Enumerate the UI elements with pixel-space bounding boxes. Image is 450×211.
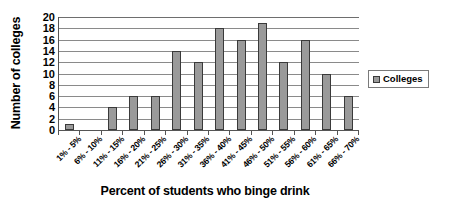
binge-drinking-bar-chart: Number of colleges 02468101214161820 1% … — [0, 0, 450, 211]
bar[interactable] — [279, 62, 288, 130]
bar[interactable] — [237, 40, 246, 130]
bar-slot — [102, 17, 123, 130]
bar[interactable] — [258, 23, 267, 130]
y-axis-title: Number of colleges — [9, 3, 23, 143]
bar[interactable] — [344, 96, 353, 130]
bar[interactable] — [215, 28, 224, 130]
y-axis-tick-label: 10 — [29, 68, 55, 79]
y-axis-tick-label: 16 — [29, 34, 55, 45]
bar-slot — [59, 17, 80, 130]
x-axis-tick-labels: 1% - 5%6% - 10%11% - 15%16% - 20%21% - 2… — [58, 134, 359, 180]
y-axis-tick-labels: 02468101214161820 — [29, 12, 55, 130]
bar-series-colleges — [59, 17, 359, 130]
bar-slot — [123, 17, 144, 130]
bar[interactable] — [322, 74, 331, 131]
bar[interactable] — [129, 96, 138, 130]
y-axis-tick-label: 0 — [29, 125, 55, 136]
y-axis-tick-label: 4 — [29, 102, 55, 113]
bar[interactable] — [108, 107, 117, 130]
chart-legend: Colleges — [368, 70, 429, 88]
bar-slot — [80, 17, 101, 130]
legend-label-colleges: Colleges — [383, 74, 423, 84]
bar-slot — [316, 17, 337, 130]
y-axis-tick-label: 12 — [29, 57, 55, 68]
y-axis-tick-label: 18 — [29, 23, 55, 34]
bar-slot — [230, 17, 251, 130]
bar[interactable] — [172, 51, 181, 130]
bar[interactable] — [301, 40, 310, 130]
bar-slot — [209, 17, 230, 130]
y-axis-tick-label: 14 — [29, 45, 55, 56]
plot-area — [58, 17, 359, 131]
legend-swatch-colleges — [373, 76, 380, 83]
bar[interactable] — [194, 62, 203, 130]
bar-slot — [273, 17, 294, 130]
y-axis-tick-label: 6 — [29, 91, 55, 102]
bar-slot — [145, 17, 166, 130]
bar-slot — [166, 17, 187, 130]
x-axis-title: Percent of students who binge drink — [55, 184, 355, 198]
y-axis-tick-label: 20 — [29, 12, 55, 23]
bar[interactable] — [65, 124, 74, 130]
y-axis-tick-label: 8 — [29, 79, 55, 90]
bar-slot — [295, 17, 316, 130]
y-axis-tick-label: 2 — [29, 113, 55, 124]
bar-slot — [337, 17, 358, 130]
bar-slot — [252, 17, 273, 130]
bar[interactable] — [151, 96, 160, 130]
bar-slot — [188, 17, 209, 130]
